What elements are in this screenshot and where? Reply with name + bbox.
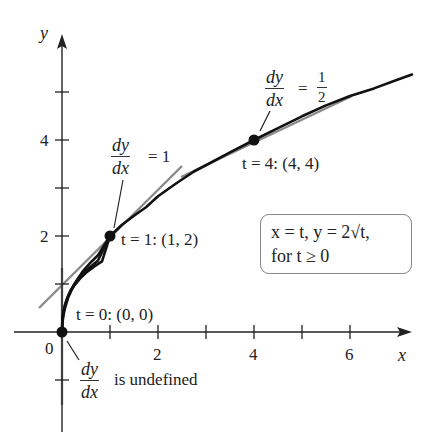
origin-label: 0 [45,340,54,357]
x-tick-label-6: 6 [345,346,354,363]
point-t0 [57,327,68,338]
x-axis-label: x [398,346,406,364]
point-label-t4: t = 4: (4, 4) [242,155,319,172]
point-label-t0: t = 0: (0, 0) [76,306,153,323]
leader-line-t4 [260,111,270,131]
slope-text-t1: = 1 [148,148,170,165]
x-tick-label-2: 2 [153,346,162,363]
x-tick-label-4: 4 [249,346,258,363]
x-axis [14,327,412,337]
leader-line-t1 [114,180,123,228]
y-axis-label: y [40,24,48,42]
y-tick-label-2: 2 [40,228,49,245]
slope-value-numerator: 1 [317,70,327,88]
point-t1 [105,231,116,242]
slope-denominator: dx [111,157,130,177]
equation-line-1: x = t, y = 2√t, [271,223,370,241]
equation-line-2: for t ≥ 0 [271,247,329,265]
y-axis [57,34,67,432]
slope-fraction-t4: dy dx [265,68,284,109]
slope-value-denominator: 2 [317,88,327,105]
point-t4 [249,135,260,146]
slope-fraction-t0: dy dx [80,360,99,401]
slope-numerator: dy [80,360,99,381]
slope-denominator: dx [80,381,99,401]
slope-numerator: dy [265,68,284,89]
point-label-t1: t = 1: (1, 2) [121,231,198,248]
slope-value-fraction-t4: 1 2 [317,70,327,105]
y-tick-label-4: 4 [40,132,49,149]
slope-denominator: dx [265,89,284,109]
slope-numerator: dy [111,136,130,157]
equation-box: x = t, y = 2√t, for t ≥ 0 [260,214,412,274]
leader-line-t0 [67,341,79,360]
parametric-curve-diagram: y x 0 2 4 6 2 4 t = 0: (0, 0) t = 1: (1,… [0,0,430,443]
slope-equals-t4: = [298,80,308,97]
slope-fraction-t1: dy dx [111,136,130,177]
slope-text-t0: is undefined [114,371,198,388]
